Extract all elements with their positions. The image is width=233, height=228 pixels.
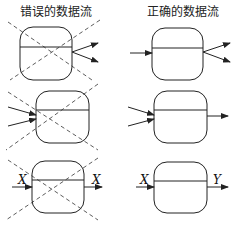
correct-process-1 <box>130 28 230 80</box>
wrong-output-label: X <box>91 173 101 187</box>
wrong-process-3: X X <box>6 158 102 220</box>
cross-out-line <box>8 92 98 150</box>
correct-process-3: X Y <box>136 162 228 213</box>
wrong-process-2 <box>6 84 98 150</box>
cross-out-line <box>10 20 100 80</box>
correct-input-label: X <box>139 173 149 187</box>
correct-process-2 <box>128 91 228 143</box>
correct-output-label: Y <box>213 173 222 187</box>
dataflow-diagram: X X X Y <box>0 0 233 228</box>
wrong-process-1 <box>8 20 100 80</box>
wrong-input-label: X <box>17 173 27 187</box>
